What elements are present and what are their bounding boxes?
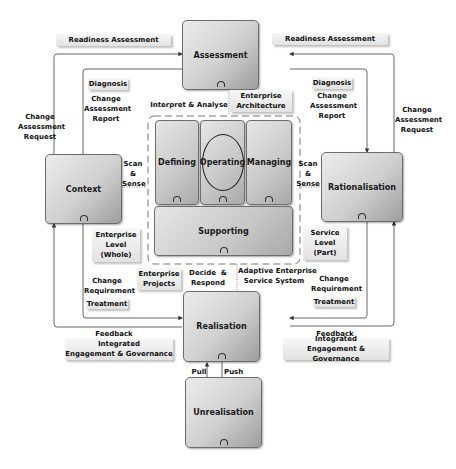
label-line: Change <box>395 105 439 115</box>
push-label: Push <box>224 367 242 377</box>
label-line: Change <box>84 276 130 286</box>
change-assessment-report-right: Change Assessment Report <box>310 91 354 121</box>
supporting-label: Supporting <box>198 227 248 236</box>
rationalisation-node[interactable]: Rationalisation <box>321 152 403 222</box>
change-assessment-report-left: Change Assessment Report <box>84 94 128 124</box>
tag-text: Architecture <box>236 101 285 111</box>
tag-text: Integrated <box>98 339 140 349</box>
tag-text: Treatment <box>314 297 355 307</box>
label-line: & <box>122 169 144 179</box>
assessment-label: Assessment <box>194 51 248 60</box>
tag-text: Diagnosis <box>313 78 351 88</box>
interpret-analyse-label: Interpret & Analyse <box>150 100 228 110</box>
assessment-node[interactable]: Assessment <box>182 20 259 90</box>
tag-text: (Part) <box>314 248 337 258</box>
loop-icon <box>220 247 228 253</box>
realisation-node[interactable]: Realisation <box>183 291 260 362</box>
loop-icon <box>219 196 227 202</box>
label-line: Assessment <box>18 122 62 132</box>
managing-node[interactable]: Managing <box>246 120 292 205</box>
integrated-engagement-right-tag: Integrated Engagement & Governance <box>283 338 389 360</box>
pull-label: Pull <box>191 367 207 377</box>
defining-label: Defining <box>158 158 196 167</box>
readiness-assessment-left-tag: Readiness Assessment <box>56 34 171 46</box>
loop-icon <box>358 213 366 219</box>
treatment-left-tag: Treatment <box>86 298 128 309</box>
tag-text: Treatment <box>87 299 128 309</box>
loop-icon <box>217 81 225 87</box>
change-requirement-left: Change Requirement <box>84 276 130 296</box>
label-line: Requirement <box>84 286 130 296</box>
tag-text: Engagement & Governance <box>65 349 173 359</box>
defining-node[interactable]: Defining <box>155 120 199 205</box>
loop-icon <box>80 215 88 221</box>
label-line: Service System <box>238 276 310 286</box>
tag-text: Readiness Assessment <box>69 35 159 45</box>
label-line: Sense <box>122 179 144 189</box>
loop-icon <box>220 439 228 445</box>
label-line: Assessment <box>310 101 354 111</box>
enterprise-architecture-tag: Enterprise Architecture <box>230 90 292 112</box>
realisation-label: Realisation <box>196 322 246 331</box>
label-line: Report <box>310 111 354 121</box>
tag-text: Level <box>106 240 127 250</box>
label-line: Assessment <box>84 104 128 114</box>
label-line: Report <box>84 114 128 124</box>
label-line: Request <box>395 125 439 135</box>
tag-text: Level <box>315 238 336 248</box>
label-line: Decide & <box>183 268 233 278</box>
treatment-right-tag: Treatment <box>313 296 355 307</box>
label-line: Feedback <box>94 329 134 339</box>
label-line: Request <box>18 132 62 142</box>
tag-text: Enterprise <box>95 230 136 240</box>
label-line: Push <box>224 367 242 377</box>
label-line: Requirement <box>311 284 357 294</box>
label-line: Scan <box>296 159 320 169</box>
loop-icon <box>265 196 273 202</box>
supporting-node[interactable]: Supporting <box>154 206 293 256</box>
tag-text: Service <box>310 228 339 238</box>
feedback-left-label: Feedback <box>94 329 134 339</box>
context-node[interactable]: Context <box>45 154 122 224</box>
diagnosis-left-tag: Diagnosis <box>88 78 128 90</box>
label-line: Change <box>18 112 62 122</box>
unrealisation-node[interactable]: Unrealisation <box>185 377 262 448</box>
change-assessment-request-left: Change Assessment Request <box>18 112 62 142</box>
tag-text: (Whole) <box>100 250 131 260</box>
change-requirement-right: Change Requirement <box>311 274 357 294</box>
label-line: Pull <box>191 367 207 377</box>
tag-text: Diagnosis <box>89 79 127 89</box>
scan-sense-right: Scan & Sense <box>296 159 320 189</box>
adaptive-enterprise-service-system-label: Adaptive Enterprise Service System <box>238 266 310 286</box>
tag-text: Enterprise <box>138 269 179 279</box>
label-line: Change <box>311 274 357 284</box>
label-line: Feedback <box>315 329 355 339</box>
service-level-tag: Service Level (Part) <box>303 226 347 260</box>
unrealisation-label: Unrealisation <box>193 408 253 417</box>
label-line: Interpret & Analyse <box>150 100 228 110</box>
rationalisation-label: Rationalisation <box>328 183 396 192</box>
readiness-assessment-right-tag: Readiness Assessment <box>272 33 388 45</box>
label-line: Assessment <box>395 115 439 125</box>
tag-text: Engagement & Governance <box>283 344 389 364</box>
enterprise-level-tag: Enterprise Level (Whole) <box>92 228 140 262</box>
loop-icon <box>173 196 181 202</box>
label-line: Adaptive Enterprise <box>238 266 310 276</box>
label-line: Change <box>84 94 128 104</box>
label-line: & <box>296 169 320 179</box>
tag-text: Projects <box>143 279 175 289</box>
tag-text: Enterprise <box>240 91 281 101</box>
diagnosis-right-tag: Diagnosis <box>312 77 352 89</box>
label-line: Sense <box>296 179 320 189</box>
managing-label: Managing <box>247 158 291 167</box>
feedback-right-label: Feedback <box>315 329 355 339</box>
label-line: Scan <box>122 159 144 169</box>
context-label: Context <box>66 185 101 194</box>
label-line: Change <box>310 91 354 101</box>
change-assessment-request-right: Change Assessment Request <box>395 105 439 135</box>
decide-respond-label: Decide & Respond <box>183 268 233 288</box>
label-line: Respond <box>183 278 233 288</box>
enterprise-projects-tag: Enterprise Projects <box>137 268 181 290</box>
loop-icon <box>218 353 226 359</box>
tag-text: Readiness Assessment <box>285 34 375 44</box>
